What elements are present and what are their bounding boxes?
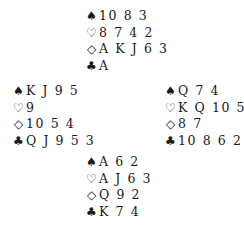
south-diamonds-cards: Q 9 2 xyxy=(99,187,141,204)
east-hearts-cards: K Q 10 5 xyxy=(178,100,244,117)
west-clubs-cards: Q J 9 5 3 xyxy=(26,133,95,150)
west-diamonds-row: ◇10 5 4 xyxy=(13,116,95,133)
west-spades-row: ♠K J 9 5 xyxy=(13,83,95,100)
north-hearts-cards: 8 7 4 2 xyxy=(99,25,154,42)
east-clubs-cards: 10 8 6 2 xyxy=(178,133,243,150)
club-icon: ♣ xyxy=(86,204,97,221)
north-spades-cards: 10 8 3 xyxy=(99,8,148,25)
spade-icon: ♠ xyxy=(86,8,97,25)
west-hand: ♠K J 9 5 ♡9 ◇10 5 4 ♣Q J 9 5 3 xyxy=(13,83,95,150)
club-icon: ♣ xyxy=(86,58,97,75)
south-diamonds-row: ◇Q 9 2 xyxy=(86,187,152,204)
heart-icon: ♡ xyxy=(86,25,97,42)
east-spades-row: ♠Q 7 4 xyxy=(165,83,244,100)
east-spades-cards: Q 7 4 xyxy=(178,83,220,100)
west-diamonds-cards: 10 5 4 xyxy=(26,116,75,133)
north-spades-row: ♠10 8 3 xyxy=(86,8,169,25)
west-hearts-cards: 9 xyxy=(26,100,36,117)
north-hearts-row: ♡8 7 4 2 xyxy=(86,25,169,42)
east-hand: ♠Q 7 4 ♡K Q 10 5 ◇8 7 ♣10 8 6 2 xyxy=(165,83,244,150)
heart-icon: ♡ xyxy=(13,100,24,117)
diamond-icon: ◇ xyxy=(13,116,24,133)
south-hearts-row: ♡A J 6 3 xyxy=(86,171,152,188)
west-spades-cards: K J 9 5 xyxy=(26,83,79,100)
west-clubs-row: ♣Q J 9 5 3 xyxy=(13,133,95,150)
club-icon: ♣ xyxy=(13,133,24,150)
heart-icon: ♡ xyxy=(165,100,176,117)
east-hearts-row: ♡K Q 10 5 xyxy=(165,100,244,117)
east-diamonds-row: ◇8 7 xyxy=(165,116,244,133)
north-diamonds-cards: A K J 6 3 xyxy=(99,41,169,58)
south-hearts-cards: A J 6 3 xyxy=(99,171,152,188)
heart-icon: ♡ xyxy=(86,171,97,188)
spade-icon: ♠ xyxy=(13,83,24,100)
east-clubs-row: ♣10 8 6 2 xyxy=(165,133,244,150)
east-diamonds-cards: 8 7 xyxy=(178,116,203,133)
south-clubs-row: ♣K 7 4 xyxy=(86,204,152,221)
south-spades-cards: A 6 2 xyxy=(99,154,140,171)
spade-icon: ♠ xyxy=(165,83,176,100)
diamond-icon: ◇ xyxy=(86,41,97,58)
spade-icon: ♠ xyxy=(86,154,97,171)
north-diamonds-row: ◇A K J 6 3 xyxy=(86,41,169,58)
north-hand: ♠10 8 3 ♡8 7 4 2 ◇A K J 6 3 ♣A xyxy=(86,8,169,75)
south-spades-row: ♠A 6 2 xyxy=(86,154,152,171)
club-icon: ♣ xyxy=(165,133,176,150)
west-hearts-row: ♡9 xyxy=(13,100,95,117)
diamond-icon: ◇ xyxy=(86,187,97,204)
diamond-icon: ◇ xyxy=(165,116,176,133)
south-clubs-cards: K 7 4 xyxy=(99,204,140,221)
north-clubs-cards: A xyxy=(99,58,110,75)
south-hand: ♠A 6 2 ♡A J 6 3 ◇Q 9 2 ♣K 7 4 xyxy=(86,154,152,221)
north-clubs-row: ♣A xyxy=(86,58,169,75)
